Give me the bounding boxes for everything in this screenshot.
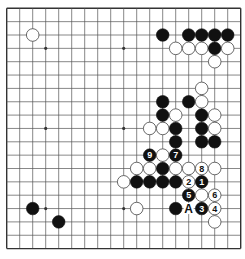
move-number-label: 7 bbox=[173, 150, 178, 160]
black-stone bbox=[156, 176, 169, 189]
white-stone bbox=[208, 55, 221, 68]
white-stone-icon bbox=[208, 162, 221, 175]
black-stone bbox=[169, 136, 182, 149]
black-stone-icon bbox=[130, 176, 143, 189]
move-number-label: 5 bbox=[186, 190, 191, 200]
white-stone-icon bbox=[195, 189, 208, 202]
go-board-canvas: 978215634 A bbox=[0, 0, 245, 259]
black-stone-icon bbox=[208, 42, 221, 55]
black-stone-icon bbox=[182, 29, 195, 42]
black-stone bbox=[208, 136, 221, 149]
white-stone-icon bbox=[195, 42, 208, 55]
point-marker-label: A bbox=[184, 202, 193, 216]
black-stone bbox=[195, 136, 208, 149]
white-stone-icon bbox=[156, 149, 169, 162]
white-stone bbox=[195, 42, 208, 55]
black-stone-move-1: 1 bbox=[195, 176, 208, 189]
white-stone bbox=[169, 42, 182, 55]
white-stone-icon bbox=[182, 42, 195, 55]
black-stone bbox=[156, 162, 169, 175]
white-stone-icon bbox=[143, 162, 156, 175]
move-number-label: 2 bbox=[186, 177, 191, 187]
white-stone-move-8: 8 bbox=[195, 162, 208, 175]
black-stone bbox=[26, 202, 39, 215]
black-stone bbox=[156, 95, 169, 108]
white-stone bbox=[130, 162, 143, 175]
white-stone-icon bbox=[156, 122, 169, 135]
white-stone-icon bbox=[208, 55, 221, 68]
black-stone-icon bbox=[195, 109, 208, 122]
black-stone bbox=[130, 176, 143, 189]
white-stone-icon bbox=[208, 216, 221, 229]
white-stone-icon bbox=[143, 122, 156, 135]
black-stone bbox=[156, 29, 169, 42]
white-stone bbox=[156, 122, 169, 135]
white-stone bbox=[195, 82, 208, 95]
white-stone bbox=[208, 109, 221, 122]
white-stone bbox=[221, 42, 234, 55]
white-stone-icon bbox=[195, 95, 208, 108]
black-stone-icon bbox=[221, 29, 234, 42]
black-stone-icon bbox=[143, 176, 156, 189]
black-stone bbox=[208, 29, 221, 42]
star-point bbox=[122, 207, 125, 210]
white-stone bbox=[130, 202, 143, 215]
white-stone-move-2: 2 bbox=[182, 176, 195, 189]
black-stone-icon bbox=[169, 176, 182, 189]
white-stone bbox=[208, 216, 221, 229]
black-stone-move-7: 7 bbox=[169, 149, 182, 162]
white-stone bbox=[208, 162, 221, 175]
black-stone bbox=[182, 95, 195, 108]
black-stone-icon bbox=[182, 95, 195, 108]
white-stone bbox=[156, 149, 169, 162]
white-stone bbox=[169, 109, 182, 122]
white-stone-icon bbox=[117, 176, 130, 189]
white-stone-move-6: 6 bbox=[208, 189, 221, 202]
black-stone-icon bbox=[208, 29, 221, 42]
black-stone-icon bbox=[156, 162, 169, 175]
white-stone-icon bbox=[182, 162, 195, 175]
black-stone-icon bbox=[169, 202, 182, 215]
black-stone bbox=[143, 176, 156, 189]
white-stone bbox=[182, 162, 195, 175]
move-number-label: 4 bbox=[212, 204, 217, 214]
white-stone bbox=[26, 29, 39, 42]
star-point bbox=[44, 207, 47, 210]
black-stone-icon bbox=[195, 122, 208, 135]
black-stone bbox=[208, 42, 221, 55]
black-stone-move-3: 3 bbox=[195, 202, 208, 215]
white-stone bbox=[143, 122, 156, 135]
white-stone bbox=[117, 176, 130, 189]
white-stone-icon bbox=[208, 109, 221, 122]
white-stone-icon bbox=[130, 202, 143, 215]
white-stone-icon bbox=[221, 42, 234, 55]
black-stone-icon bbox=[156, 29, 169, 42]
white-stone bbox=[195, 95, 208, 108]
black-stone bbox=[156, 109, 169, 122]
black-stone-icon bbox=[169, 136, 182, 149]
black-stone bbox=[169, 122, 182, 135]
black-stone bbox=[169, 176, 182, 189]
black-stone-icon bbox=[26, 202, 39, 215]
black-stone bbox=[182, 29, 195, 42]
black-stone-icon bbox=[195, 136, 208, 149]
markers-layer: A bbox=[184, 202, 194, 216]
black-stone bbox=[52, 216, 65, 229]
white-stone-icon bbox=[169, 42, 182, 55]
black-stone-icon bbox=[169, 122, 182, 135]
star-point bbox=[44, 127, 47, 130]
black-stone bbox=[221, 29, 234, 42]
black-stone-icon bbox=[195, 29, 208, 42]
white-stone bbox=[195, 189, 208, 202]
black-stone-icon bbox=[156, 176, 169, 189]
move-number-label: 1 bbox=[199, 177, 204, 187]
black-stone-move-5: 5 bbox=[182, 189, 195, 202]
star-point bbox=[44, 47, 47, 50]
white-stone-icon bbox=[169, 162, 182, 175]
white-stone-move-4: 4 bbox=[208, 202, 221, 215]
white-stone bbox=[182, 42, 195, 55]
black-stone bbox=[195, 109, 208, 122]
white-stone-icon bbox=[130, 162, 143, 175]
white-stone-icon bbox=[26, 29, 39, 42]
black-stone-move-9: 9 bbox=[143, 149, 156, 162]
